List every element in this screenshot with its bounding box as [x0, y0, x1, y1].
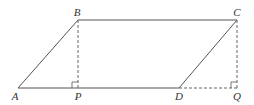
- label-B: B: [74, 6, 81, 18]
- right-angle-icon-Q: [231, 82, 237, 88]
- parallelogram-sides: [18, 20, 237, 88]
- segment-CD: [179, 20, 237, 88]
- right-angle-icon-P: [72, 82, 78, 88]
- label-D: D: [174, 90, 183, 102]
- right-angle-markers: [72, 82, 237, 88]
- perpendicular-lines: [78, 20, 237, 88]
- label-P: P: [74, 90, 82, 102]
- segment-AB: [18, 20, 78, 88]
- diagram-canvas: A B C D P Q: [0, 0, 254, 105]
- label-C: C: [233, 6, 241, 18]
- label-Q: Q: [233, 90, 241, 102]
- label-A: A: [11, 90, 19, 102]
- parallelogram-diagram: A B C D P Q: [0, 0, 254, 105]
